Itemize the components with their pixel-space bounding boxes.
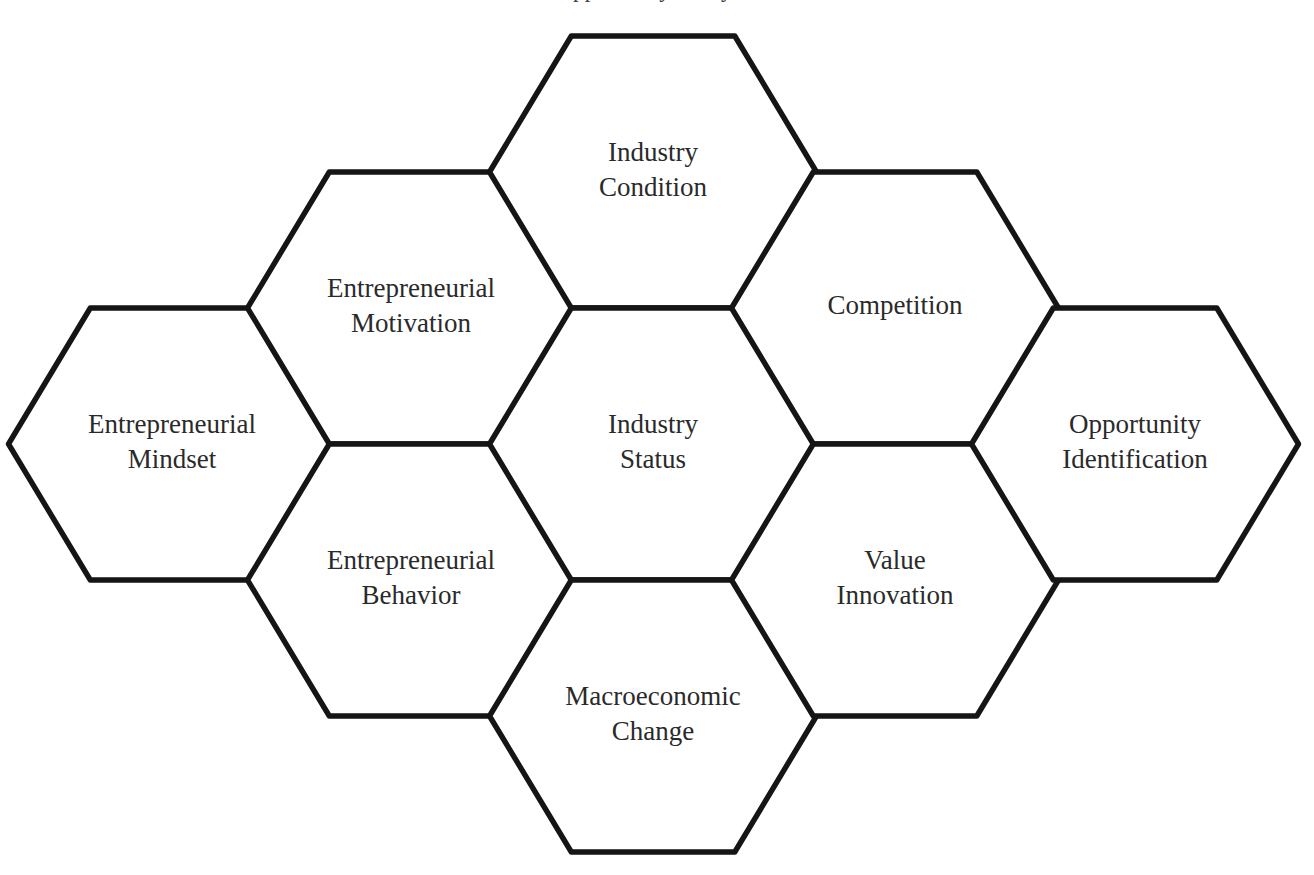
hex-label-line: Competition: [828, 290, 964, 320]
hex-label-line: Mindset: [128, 444, 217, 474]
hex-label-line: Entrepreneurial: [88, 409, 256, 439]
hex-label-line: Condition: [599, 172, 708, 202]
hex-label-line: Change: [612, 716, 694, 746]
hex-label-line: Value: [864, 545, 925, 575]
hex-label-line: Opportunity: [1069, 409, 1201, 439]
hex-label-line: Macroeconomic: [565, 681, 740, 711]
hex-label-line: Identification: [1062, 444, 1208, 474]
hex-label-competition: Competition: [828, 290, 964, 320]
hex-label-line: Entrepreneurial: [327, 545, 495, 575]
hex-label-line: Industry: [608, 409, 698, 439]
honeycomb-diagram: EntrepreneurialMindsetEntrepreneurialMot…: [0, 0, 1314, 875]
hex-label-line: Behavior: [362, 580, 461, 610]
hex-label-line: Motivation: [351, 308, 471, 338]
diagram-canvas: Opportunity Analysis EntrepreneurialMind…: [0, 0, 1314, 875]
hex-label-line: Innovation: [837, 580, 954, 610]
hex-label-line: Entrepreneurial: [327, 273, 495, 303]
hex-label-line: Status: [620, 444, 686, 474]
hex-label-line: Industry: [608, 137, 698, 167]
